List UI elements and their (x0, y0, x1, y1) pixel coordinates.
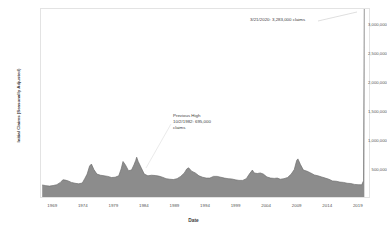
x-tick-0: 1969 (47, 203, 57, 208)
x-tick-1: 1974 (78, 203, 88, 208)
series-outline-path (42, 9, 364, 186)
covid-spike-annotation: 3/21/2020: 3,283,000 claims (250, 17, 305, 23)
series-fill-path (42, 9, 364, 197)
y-tick-3: 1,500,000 (349, 109, 387, 114)
plot-area (40, 8, 370, 198)
x-tick-8: 2009 (292, 203, 302, 208)
y-tick-0: 3,000,000 (349, 22, 387, 27)
x-tick-4: 1989 (170, 203, 180, 208)
previous-high-annotation: Previous High 10/2/1982: 695,000 claims (173, 113, 211, 132)
chart-container: 3,000,0002,500,0002,000,0001,500,0001,00… (0, 0, 387, 235)
x-tick-2: 1979 (108, 203, 118, 208)
claims-area-series (41, 9, 369, 197)
y-tick-5: 500,000 (349, 167, 387, 172)
x-tick-10: 2019 (353, 203, 363, 208)
y-axis-title: Initial Claims (Seasonally Adjusted) (16, 36, 21, 176)
previous-high-unit: claims (173, 125, 211, 131)
x-axis-title: Date (0, 218, 387, 223)
y-tick-2: 2,000,000 (349, 80, 387, 85)
y-tick-1: 2,500,000 (349, 51, 387, 56)
y-tick-4: 1,000,000 (349, 138, 387, 143)
x-tick-5: 1994 (200, 203, 210, 208)
x-tick-3: 1984 (139, 203, 149, 208)
x-tick-7: 2004 (261, 203, 271, 208)
x-tick-6: 1999 (231, 203, 241, 208)
x-tick-9: 2014 (322, 203, 332, 208)
